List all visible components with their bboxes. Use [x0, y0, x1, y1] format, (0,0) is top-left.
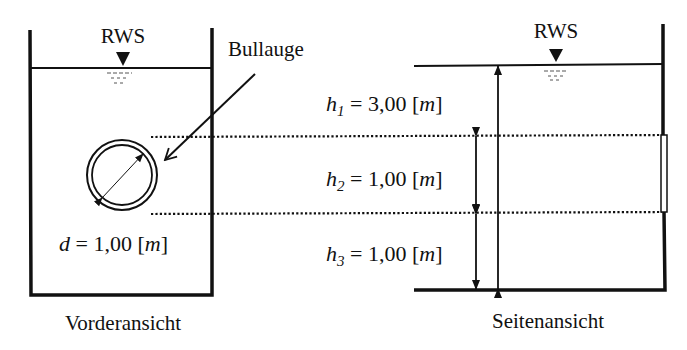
front-water-hatch-icon	[107, 73, 132, 83]
front-view-caption: Vorderansicht	[65, 311, 181, 335]
bullauge-pointer-arrow	[165, 74, 255, 160]
diameter-label: d = 1,00 [m]	[59, 231, 168, 256]
h3-label: h3 = 1,00 [m]	[326, 241, 442, 269]
porthole-bottom-dotted-line	[151, 212, 662, 214]
side-wall-lower-and-floor	[414, 212, 665, 290]
porthole-tank-diagram: RWS Bullauge d = 1,00 [m] Vorderansicht …	[0, 0, 687, 350]
side-rws-label: RWS	[534, 19, 578, 43]
side-water-surface-line	[414, 64, 663, 66]
side-view-caption: Seitenansicht	[492, 309, 604, 333]
side-water-hatch-icon	[544, 71, 568, 80]
bullauge-label: Bullauge	[228, 37, 304, 61]
h1-label: h1 = 3,00 [m]	[326, 91, 442, 119]
side-water-level-triangle-icon	[549, 49, 563, 62]
side-view: RWS h1 = 3,00 [m] h2 = 1,00 [m] h3 = 1,0…	[326, 19, 667, 333]
front-water-level-triangle-icon	[116, 52, 130, 66]
porthole-top-dotted-line	[151, 135, 662, 137]
front-view: RWS Bullauge d = 1,00 [m] Vorderansicht	[30, 24, 304, 335]
h2-label: h2 = 1,00 [m]	[326, 166, 442, 194]
front-rws-label: RWS	[101, 24, 145, 48]
porthole-side-window	[661, 135, 667, 212]
